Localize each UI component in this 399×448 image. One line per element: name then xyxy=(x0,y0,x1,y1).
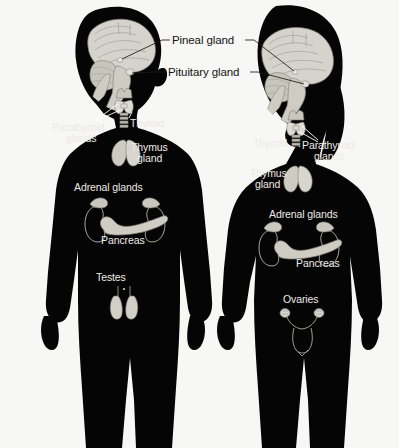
label-male-thymus-gland-line2: gland xyxy=(137,153,162,164)
label-female-ovaries: Ovaries xyxy=(283,294,318,305)
label-female-parathyroid-glands-line2: glands xyxy=(314,151,344,162)
label-male-thyroid: Thyroid xyxy=(130,118,164,129)
label-pineal-gland: Pineal gland xyxy=(172,34,234,46)
label-male-adrenal-glands: Adrenal glands xyxy=(74,182,143,193)
label-female-pancreas: Pancreas xyxy=(296,258,340,269)
label-female-thyroid: Thyroid xyxy=(253,138,287,149)
label-male-testes: Testes xyxy=(96,272,126,283)
label-female-thymus-gland-line2: gland xyxy=(255,179,280,190)
label-male-pancreas: Pancreas xyxy=(101,235,145,246)
label-male-parathyroid-glands-line2: glands xyxy=(66,133,96,144)
label-female-adrenal-glands: Adrenal glands xyxy=(269,209,338,220)
label-pituitary-gland: Pituitary gland xyxy=(168,66,239,78)
